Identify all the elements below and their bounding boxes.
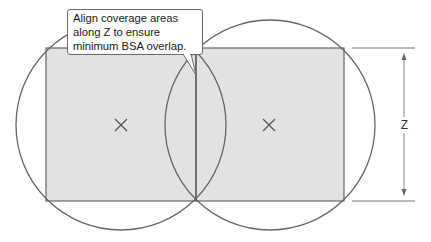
arrow-up-icon (402, 53, 407, 60)
arrow-down-icon (402, 189, 407, 196)
coverage-diagram (0, 0, 431, 242)
dimension-label: Z (398, 117, 411, 133)
callout-pointer-mask (184, 53, 190, 55)
callout-text: Align coverage areas along Z to ensure m… (73, 12, 186, 52)
callout-note: Align coverage areas along Z to ensure m… (67, 9, 203, 55)
